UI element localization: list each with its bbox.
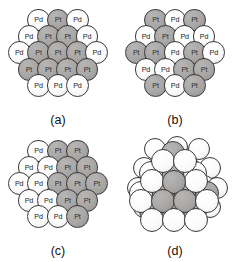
atom-cluster-c: PdPtPtPdPdPtPtPdPdPtPtPtPdPdPtPtPdPdPt [0,131,116,239]
figure-root: PdPtPdPdPtPtPdPdPtPtPtPdPtPtPtPtPdPdPd (… [0,0,233,262]
panel-b-label: (b) [117,113,233,127]
panel-b: PtPdPtPdPtPdPdPtPtPdPtPdPdPdPtPtPtPdPt (… [117,0,233,131]
atom-pt: Pt [66,205,89,228]
atom-pd [162,208,186,232]
atom-pt: Pt [183,74,206,97]
panel-c: PdPtPtPdPdPtPtPdPdPtPtPtPdPdPtPtPdPdPt (… [0,131,116,262]
atom-pd [140,208,164,232]
panel-c-label: (c) [0,244,116,258]
panel-a-label: (a) [0,113,116,127]
atom-pd [184,208,208,232]
atom-pd: Pd [66,74,89,97]
panel-d: (d) [117,131,233,262]
atom-cluster-d [117,131,233,239]
panel-a: PdPtPdPdPtPtPdPdPtPtPtPdPtPtPtPtPdPdPd (… [0,0,116,131]
panel-d-label: (d) [117,244,233,258]
atom-cluster-a: PdPtPdPdPtPtPdPdPtPtPtPdPtPtPtPtPdPdPd [0,0,116,108]
atom-cluster-b: PtPdPtPdPtPdPdPtPtPdPtPdPdPdPtPtPtPdPt [117,0,233,108]
